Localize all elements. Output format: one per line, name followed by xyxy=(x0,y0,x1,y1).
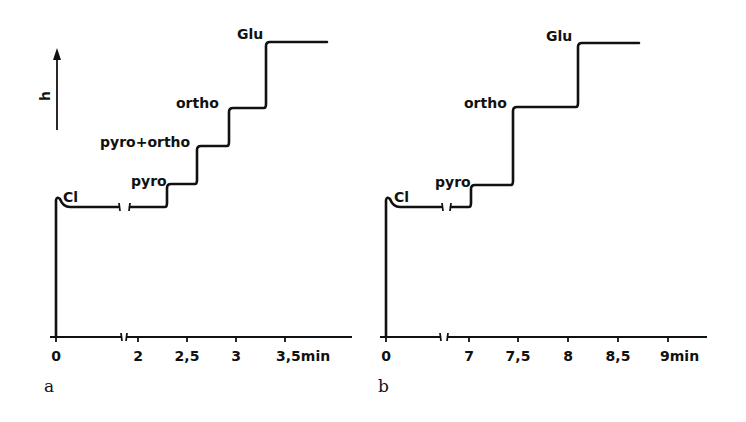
tick-label: 3 xyxy=(231,348,241,364)
tick-label: 2,5 xyxy=(175,348,200,364)
panel-a: h 0 2 2,5 3 3,5min xyxy=(37,26,352,396)
tick-label: 8,5 xyxy=(606,348,631,364)
x-tick-labels-a: 0 2 2,5 3 3,5min xyxy=(51,348,330,364)
tick-label: 7 xyxy=(464,348,474,364)
zone-label-pyro-ortho: pyro+ortho xyxy=(100,134,191,150)
tick-label: 9min xyxy=(660,348,699,364)
panel-label-a: a xyxy=(44,376,54,396)
trace-a xyxy=(56,42,327,337)
x-tick-labels-b: 0 7 7,5 8 8,5 9min xyxy=(381,348,699,364)
tick-label: 0 xyxy=(51,348,61,364)
zone-label-glu: Glu xyxy=(237,26,263,42)
trace-b xyxy=(386,43,639,337)
zone-label-ortho: ortho xyxy=(464,95,507,111)
h-axis-arrow-icon xyxy=(53,48,61,130)
zone-label-ortho: ortho xyxy=(176,95,219,111)
x-axis-b xyxy=(380,333,707,342)
tick-label: 8 xyxy=(563,348,573,364)
tick-label: 3,5min xyxy=(276,348,330,364)
zone-label-cl: Cl xyxy=(394,189,409,205)
tick-label: 0 xyxy=(381,348,391,364)
tick-label: 2 xyxy=(133,348,143,364)
y-axis-label: h xyxy=(37,91,53,101)
panel-b: 0 7 7,5 8 8,5 9min Cl pyro ortho Glu b xyxy=(378,28,707,396)
zone-label-cl: Cl xyxy=(63,189,78,205)
zone-label-pyro: pyro xyxy=(435,174,471,190)
panel-label-b: b xyxy=(378,376,389,396)
zone-label-glu: Glu xyxy=(546,28,572,44)
tick-label: 7,5 xyxy=(506,348,531,364)
zone-label-pyro: pyro xyxy=(131,173,167,189)
isotachopherogram-figure: h 0 2 2,5 3 3,5min xyxy=(0,0,746,422)
x-axis-a xyxy=(50,333,352,342)
